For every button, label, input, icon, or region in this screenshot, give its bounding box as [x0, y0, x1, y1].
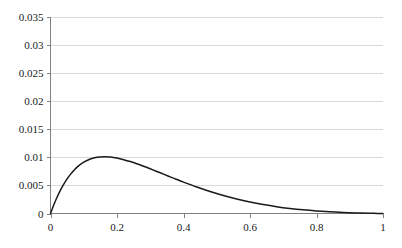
- y-tick-label: 0.005: [19, 179, 44, 191]
- chart-background: [0, 0, 402, 248]
- y-tick-label: 0: [38, 208, 44, 220]
- y-tick-label: 0.015: [19, 123, 44, 135]
- y-tick-label: 0.02: [24, 95, 43, 107]
- y-tick-label: 0.01: [24, 151, 43, 163]
- y-tick-label: 0.025: [19, 67, 44, 79]
- y-tick-label: 0.03: [24, 39, 44, 51]
- x-tick-label: 1: [380, 221, 386, 233]
- x-tick-label: 0.4: [177, 221, 191, 233]
- chart-screenshot: 00.0050.010.0150.020.0250.030.035 00.20.…: [0, 0, 402, 248]
- x-tick-label: 0.6: [243, 221, 257, 233]
- x-tick-label: 0.2: [110, 221, 124, 233]
- x-tick-label: 0.8: [310, 221, 324, 233]
- y-tick-label: 0.035: [19, 11, 44, 23]
- x-tick-label: 0: [48, 221, 54, 233]
- line-chart: 00.0050.010.0150.020.0250.030.035 00.20.…: [0, 0, 402, 248]
